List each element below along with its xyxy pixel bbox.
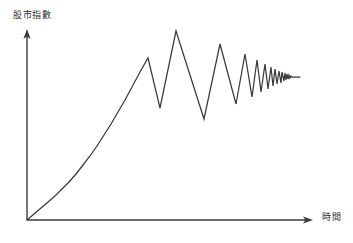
y-axis-label: 股市指數 [13,10,51,21]
data-series-line [27,31,300,220]
x-axis-label: 時間 [322,212,341,223]
stock-index-damped-oscillation-chart [0,0,353,243]
chart-figure: 股市指數 時間 [0,0,353,243]
